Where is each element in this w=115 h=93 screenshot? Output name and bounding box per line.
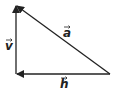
vector-a-arrow bbox=[17, 6, 110, 74]
vector-triangle-diagram: v a h bbox=[0, 0, 115, 93]
label-h: h bbox=[60, 77, 69, 92]
label-a: a bbox=[63, 26, 71, 41]
svg-text:h: h bbox=[60, 77, 69, 91]
svg-text:a: a bbox=[63, 26, 71, 40]
label-v: v bbox=[5, 39, 14, 54]
svg-text:v: v bbox=[5, 39, 14, 53]
